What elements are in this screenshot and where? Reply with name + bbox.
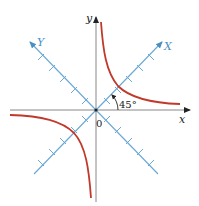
hyperbola-branch-upper-right	[101, 22, 180, 104]
rotated-x-axis	[34, 42, 162, 174]
origin-label: 0	[96, 118, 102, 129]
angle-label: 45°	[119, 99, 137, 110]
hyperbola-diagram: y x X Y 0 45°	[0, 0, 199, 206]
y-axis-label: y	[85, 12, 93, 25]
x-axis-label: x	[179, 113, 186, 126]
rotated-y-axis	[30, 42, 158, 174]
angle-arc	[112, 95, 118, 110]
rotated-y-label: Y	[37, 36, 46, 49]
origin-point	[94, 108, 97, 111]
rotated-x-label: X	[163, 40, 173, 53]
